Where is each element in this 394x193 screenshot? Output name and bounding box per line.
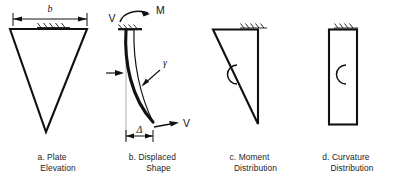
fixed-support-hatch-icon: [334, 24, 358, 29]
panel-curvature-distribution: d. Curvature Distribution: [298, 0, 394, 193]
plate-elevation-drawing: b: [0, 0, 104, 150]
shear-strain-label: γ: [163, 57, 168, 68]
moment-distribution-drawing: [201, 0, 298, 150]
shear-bottom-label: V: [183, 117, 190, 129]
fixed-support-hatch-icon: [118, 25, 142, 29]
width-dimension-label: b: [48, 3, 53, 14]
panel-moment-distribution: c. Moment Distribution: [201, 0, 298, 193]
moment-diagram-outline: [213, 30, 258, 125]
shear-strain-arrowhead: [142, 78, 150, 86]
engineering-figure: b a. Plate Elevation V M: [0, 0, 394, 193]
caption-moment-distribution: c. Moment Distribution: [201, 152, 298, 174]
caption-line-2: Shape: [104, 163, 201, 174]
shear-top-label: V: [108, 12, 115, 24]
deflection-label: Δ: [136, 124, 143, 135]
plate-outline: [10, 29, 87, 132]
caption-plate-elevation: a. Plate Elevation: [0, 152, 104, 174]
caption-line-2: Elevation: [0, 163, 104, 174]
curvature-diagram-outline: [329, 30, 357, 125]
displaced-shape-drawing: V M γ: [104, 0, 201, 150]
caption-curvature-distribution: d. Curvature Distribution: [298, 152, 394, 174]
panel-displaced-shape: V M γ: [104, 0, 201, 193]
lateral-displacement-arrow-icon: [106, 70, 124, 76]
fixed-support-hatch-icon: [240, 24, 267, 29]
caption-displaced-shape: b. Displaced Shape: [104, 152, 201, 174]
shear-bottom-arrowhead: [169, 121, 179, 127]
fixed-support-hatch-icon: [37, 23, 70, 28]
caption-line-2: Distribution: [201, 163, 298, 174]
caption-line-1: c. Moment: [230, 152, 270, 162]
panel-plate-elevation: b a. Plate Elevation: [0, 0, 104, 193]
caption-line-1: d. Curvature: [322, 152, 369, 162]
caption-line-2: Distribution: [298, 163, 394, 174]
moment-label: M: [156, 4, 165, 16]
caption-line-1: b. Displaced: [129, 152, 176, 162]
caption-line-1: a. Plate: [37, 152, 66, 162]
curvature-distribution-drawing: [298, 0, 394, 150]
